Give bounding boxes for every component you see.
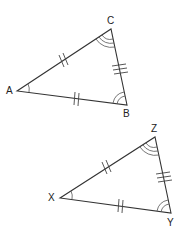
triangle-xyz: X Z Y <box>48 123 174 228</box>
triangle-abc-outline <box>17 29 127 105</box>
congruent-triangles-diagram: A C B X Z <box>0 0 185 233</box>
vertex-label-x: X <box>48 192 55 203</box>
angle-y-arcs <box>157 200 169 212</box>
vertex-label-y: Y <box>167 217 174 228</box>
angle-a-arc <box>28 84 29 92</box>
angle-b-arcs <box>113 92 125 104</box>
vertex-label-b: B <box>123 108 130 119</box>
angle-x-arc <box>71 191 72 199</box>
vertex-label-a: A <box>6 85 13 96</box>
vertex-label-z: Z <box>151 123 157 134</box>
side-xz-tick-marks <box>102 160 111 174</box>
triangle-abc: A C B <box>6 15 130 119</box>
triangle-xyz-outline <box>60 137 171 213</box>
vertex-label-c: C <box>107 15 114 26</box>
